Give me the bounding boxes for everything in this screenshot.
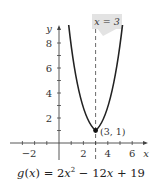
function-caption: g(x) = 2x2 − 12x + 19	[0, 166, 162, 180]
y-tick-label: 6	[46, 63, 52, 74]
x-axis-arrow-icon	[143, 141, 148, 145]
parabola-chart: −2 2 4 6 x 2 4 6 8 y x = 3 (3, 1)	[0, 0, 162, 186]
y-axis-label: y	[45, 23, 52, 34]
callout-label: x = 3	[94, 16, 119, 27]
y-axis-arrow-icon	[57, 25, 61, 30]
x-axis-label: x	[143, 148, 149, 159]
x-tick-label: −2	[22, 148, 37, 159]
x-tick-label: 2	[80, 148, 86, 159]
y-tick-label: 2	[46, 113, 52, 124]
axis-of-symmetry-callout: x = 3	[92, 14, 122, 36]
x-tick-label: 4	[105, 148, 111, 159]
vertex-point	[93, 128, 98, 133]
x-tick-label: 6	[129, 148, 135, 159]
y-tick-label: 8	[46, 38, 52, 49]
vertex-label: (3, 1)	[100, 126, 126, 137]
y-tick-label: 4	[46, 88, 52, 99]
